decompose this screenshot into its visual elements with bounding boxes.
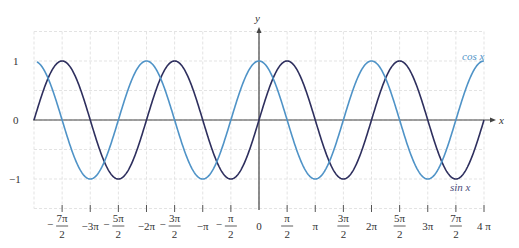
- x-tick-numerator: 3π: [169, 212, 181, 224]
- x-tick-denominator: 2: [397, 228, 403, 240]
- x-tick-denominator: 2: [116, 228, 122, 240]
- x-axis-arrow-icon: [490, 118, 496, 123]
- x-tick-numerator: 7π: [450, 212, 462, 224]
- x-tick-label: 3π: [422, 220, 434, 232]
- y-tick-labels: 10−1: [9, 55, 21, 185]
- y-axis-arrow-icon: [257, 27, 262, 33]
- x-tick-numerator: 5π: [394, 212, 406, 224]
- y-tick-label: −1: [9, 173, 21, 185]
- x-tick-label: π: [312, 220, 318, 232]
- x-tick-sign: −: [47, 218, 53, 230]
- x-tick-label: −3π: [82, 220, 100, 232]
- x-tick-label: 2π: [366, 220, 378, 232]
- y-tick-label: 0: [13, 114, 19, 126]
- trig-chart: x y 10−1 −7π2−3π−5π2−2π−3π2−π−π20π2π3π22…: [0, 0, 519, 248]
- x-tick-denominator: 2: [228, 228, 234, 240]
- x-tick-denominator: 2: [172, 228, 178, 240]
- x-tick-labels: −7π2−3π−5π2−2π−3π2−π−π20π2π3π22π5π23π7π2…: [47, 205, 491, 240]
- y-axis-label: y: [254, 12, 260, 24]
- x-tick-numerator: 7π: [57, 212, 69, 224]
- cos-curve-label: cos x: [462, 50, 484, 62]
- sin-curve-label: sin x: [450, 181, 471, 193]
- x-tick-numerator: π: [284, 212, 290, 224]
- x-tick-sign: −: [160, 218, 166, 230]
- x-tick-denominator: 2: [59, 228, 65, 240]
- x-axis-label: x: [498, 114, 504, 126]
- x-tick-label: −π: [197, 220, 209, 232]
- x-tick-label: 0: [256, 220, 262, 232]
- x-tick-label: 4 π: [477, 220, 491, 232]
- x-tick-denominator: 2: [284, 228, 290, 240]
- x-tick-numerator: 5π: [113, 212, 125, 224]
- x-tick-sign: −: [216, 218, 222, 230]
- x-tick-numerator: π: [228, 212, 234, 224]
- x-tick-label: −2π: [138, 220, 156, 232]
- y-tick-label: 1: [13, 55, 19, 67]
- x-tick-sign: −: [103, 218, 109, 230]
- axes: x y: [33, 12, 504, 210]
- x-tick-numerator: 3π: [338, 212, 350, 224]
- x-tick-denominator: 2: [453, 228, 459, 240]
- x-tick-denominator: 2: [341, 228, 347, 240]
